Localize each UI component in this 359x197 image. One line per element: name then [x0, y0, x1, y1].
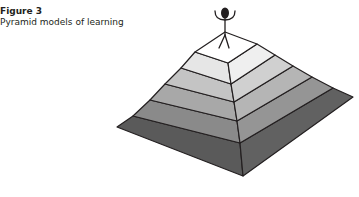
pyramid-diagram: [0, 0, 359, 197]
pyramid: [117, 32, 353, 176]
